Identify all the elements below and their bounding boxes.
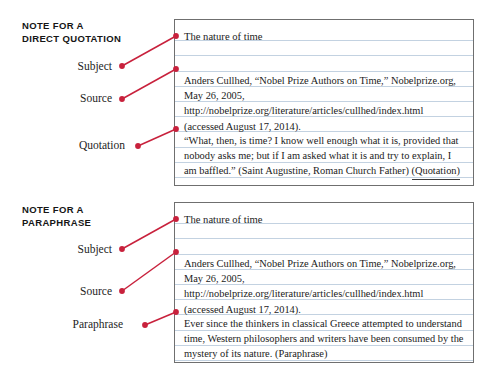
note-subject-quotation: The nature of time (184, 29, 465, 44)
callout-label-paraphrase: Paraphrase (3, 318, 123, 331)
leader-subject-paraphrase (119, 216, 179, 252)
note-subject-paraphrase: The nature of time (184, 212, 465, 227)
section-heading-paraphrase: NOTE FOR A PARAPHRASE (22, 204, 91, 229)
section-heading-direct-quotation: NOTE FOR A DIRECT QUOTATION (22, 20, 121, 45)
note-source-quotation: Anders Cullhed, “Nobel Prize Authors on … (184, 73, 465, 134)
callout-label-subject-quotation: Subject (0, 60, 112, 73)
note-source-paraphrase: Anders Cullhed, “Nobel Prize Authors on … (184, 256, 465, 317)
leader-subject-quotation (119, 33, 179, 69)
callout-label-quotation: Quotation (5, 139, 125, 152)
note-body-paraphrase: Ever since the thinkers in classical Gre… (184, 316, 465, 363)
callout-label-source-quotation: Source (0, 92, 112, 105)
leader-quotation (135, 126, 179, 149)
leader-source-paraphrase (119, 249, 179, 294)
note-card-direct-quotation: The nature of time Anders Cullhed, “Nobe… (174, 19, 474, 186)
note-body-tag-paraphrase: (Paraphrase) (275, 346, 328, 362)
note-body-tag-quotation: (Quotation) (412, 163, 460, 179)
note-body-quotation: “What, then, is time? I know well enough… (184, 133, 465, 180)
note-card-diagram: NOTE FOR A DIRECT QUOTATION Subject Sour… (0, 0, 494, 387)
note-card-paraphrase: The nature of time Anders Cullhed, “Nobe… (174, 202, 474, 363)
callout-label-source-paraphrase: Source (0, 285, 112, 298)
leader-source-quotation (119, 66, 179, 102)
callout-label-subject-paraphrase: Subject (0, 243, 112, 256)
